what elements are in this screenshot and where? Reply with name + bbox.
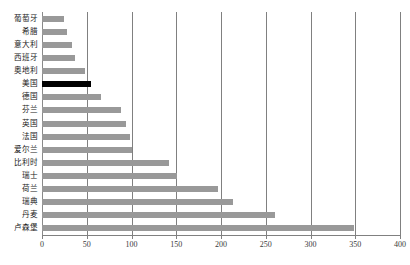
bar: [42, 225, 354, 231]
bar: [42, 29, 67, 35]
y-axis-label: 丹麦: [0, 211, 38, 219]
x-axis-tick-label: 350: [335, 240, 375, 250]
plot-area: [42, 12, 400, 235]
bar: [42, 55, 75, 61]
y-axis-label: 葡萄牙: [0, 15, 38, 23]
bar: [42, 212, 275, 218]
bar: [42, 147, 132, 153]
bar: [42, 160, 169, 166]
x-axis-tick: [400, 235, 401, 239]
y-axis-label: 荷兰: [0, 185, 38, 193]
x-axis-tick-label: 150: [156, 240, 196, 250]
bar-chart: 葡萄牙希腊意大利西班牙奥地利美国德国芬兰英国法国爱尔兰比利时瑞士荷兰瑞典丹麦卢森…: [0, 0, 410, 265]
bar: [42, 107, 121, 113]
x-axis-tick: [355, 235, 356, 239]
x-axis-tick-labels: 050100150200250300350400: [0, 240, 410, 254]
x-axis-tick-label: 100: [112, 240, 152, 250]
bar: [42, 199, 233, 205]
x-axis-ticks: [42, 235, 400, 239]
y-axis-label: 比利时: [0, 159, 38, 167]
bar: [42, 42, 72, 48]
x-axis-tick: [266, 235, 267, 239]
x-axis-tick-label: 0: [22, 240, 62, 250]
y-axis-label: 卢森堡: [0, 224, 38, 232]
y-axis-label: 法国: [0, 133, 38, 141]
gridline-400: [400, 12, 401, 235]
y-axis-label: 奥地利: [0, 67, 38, 75]
x-axis-tick: [87, 235, 88, 239]
x-axis-tick-label: 400: [380, 240, 410, 250]
y-axis-label: 爱尔兰: [0, 146, 38, 154]
x-axis-tick-label: 50: [67, 240, 107, 250]
x-axis-tick: [42, 235, 43, 239]
y-axis-label: 西班牙: [0, 54, 38, 62]
bar: [42, 186, 218, 192]
bar: [42, 94, 101, 100]
y-axis-label: 美国: [0, 80, 38, 88]
y-axis-label: 意大利: [0, 41, 38, 49]
bar: [42, 16, 64, 22]
x-axis-tick-label: 200: [201, 240, 241, 250]
x-axis-tick-label: 300: [291, 240, 331, 250]
bar: [42, 134, 130, 140]
x-axis-tick: [132, 235, 133, 239]
y-axis-label: 英国: [0, 120, 38, 128]
bar: [42, 81, 91, 87]
x-axis-tick-label: 250: [246, 240, 286, 250]
chart-title: [120, 0, 320, 3]
y-axis-category-labels: 葡萄牙希腊意大利西班牙奥地利美国德国芬兰英国法国爱尔兰比利时瑞士荷兰瑞典丹麦卢森…: [0, 12, 40, 235]
x-axis-tick: [176, 235, 177, 239]
y-axis-label: 芬兰: [0, 106, 38, 114]
y-axis-label: 瑞士: [0, 172, 38, 180]
bar: [42, 173, 177, 179]
y-axis-label: 希腊: [0, 28, 38, 36]
bar: [42, 68, 85, 74]
bar: [42, 121, 126, 127]
x-axis-tick: [311, 235, 312, 239]
bar-series: [42, 12, 400, 235]
x-axis-tick: [221, 235, 222, 239]
y-axis-label: 瑞典: [0, 198, 38, 206]
y-axis-label: 德国: [0, 93, 38, 101]
